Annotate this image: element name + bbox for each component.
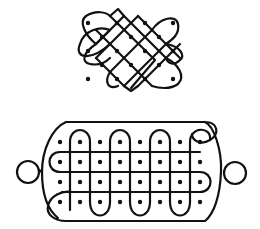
top-kolam-strands (79, 9, 183, 91)
bottom-kolam (17, 122, 246, 221)
right-loop (224, 162, 246, 184)
top-kolam (79, 9, 183, 91)
kolam-svg (0, 0, 260, 229)
left-loop (17, 161, 39, 183)
kolam-figure (0, 0, 260, 229)
